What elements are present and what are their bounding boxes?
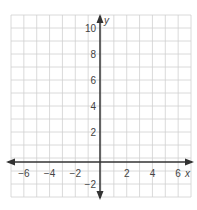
y-axis xyxy=(97,14,104,200)
y-tick-label: −2 xyxy=(85,179,97,190)
x-tick-label: 2 xyxy=(124,168,130,179)
x-tick-label: −2 xyxy=(70,168,82,179)
y-tick-label: 2 xyxy=(90,127,96,138)
x-tick-label: −6 xyxy=(18,168,30,179)
y-tick-label: 8 xyxy=(90,49,96,60)
y-tick-labels: 108642−2 xyxy=(85,23,97,190)
y-tick-label: 4 xyxy=(90,101,96,112)
x-tick-label: −4 xyxy=(44,168,56,179)
y-tick-label: 10 xyxy=(85,23,97,34)
x-tick-label: 4 xyxy=(150,168,156,179)
y-axis-label: y xyxy=(103,15,110,26)
y-tick-label: 6 xyxy=(90,75,96,86)
grid-lines xyxy=(11,15,191,197)
x-axis-label: x xyxy=(184,168,191,179)
x-tick-label: 6 xyxy=(175,168,181,179)
coordinate-plane: x y −6−4−2246 108642−2 xyxy=(0,0,197,210)
